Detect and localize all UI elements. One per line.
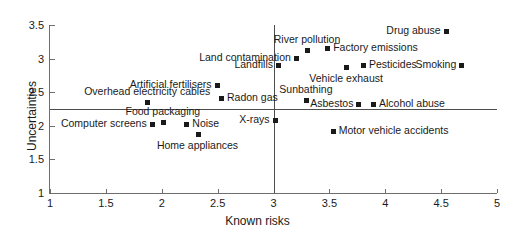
data-point-label: Overhead electricity cables xyxy=(84,86,210,97)
data-point-marker[interactable] xyxy=(145,100,150,105)
x-axis-line xyxy=(50,193,497,194)
data-point-label: Food packaging xyxy=(125,106,200,117)
x-tick-mark xyxy=(385,189,386,193)
data-point-label: River pollution xyxy=(274,34,341,45)
data-point-label: Asbestos xyxy=(310,98,353,109)
data-point-label: Alcohol abuse xyxy=(379,98,445,109)
x-tick-label: 4.5 xyxy=(433,197,448,209)
data-point-marker[interactable] xyxy=(305,48,310,53)
x-tick-label: 1 xyxy=(47,197,53,209)
x-axis-title: Known risks xyxy=(0,214,515,228)
data-point-marker[interactable] xyxy=(344,65,349,70)
x-tick-label: 5 xyxy=(494,197,500,209)
data-point-label: Landfills xyxy=(234,59,273,70)
y-tick-mark xyxy=(50,159,55,160)
data-point-marker[interactable] xyxy=(215,83,220,88)
x-tick-mark xyxy=(162,189,163,193)
y-tick-mark xyxy=(50,59,55,60)
data-point-marker[interactable] xyxy=(219,96,224,101)
data-point-marker[interactable] xyxy=(459,63,464,68)
data-point-marker[interactable] xyxy=(325,46,330,51)
data-point-marker[interactable] xyxy=(444,29,449,34)
data-point-marker[interactable] xyxy=(196,132,201,137)
y-tick-mark xyxy=(50,92,55,93)
data-point-label: Pesticides xyxy=(369,59,417,70)
y-tick-mark xyxy=(50,193,55,194)
x-tick-label: 4 xyxy=(382,197,388,209)
x-tick-label: 2 xyxy=(159,197,165,209)
x-tick-mark xyxy=(218,189,219,193)
x-tick-mark xyxy=(329,189,330,193)
data-point-marker[interactable] xyxy=(356,102,361,107)
x-tick-label: 3.5 xyxy=(322,197,337,209)
data-point-label: Computer screens xyxy=(61,118,147,129)
data-point-label: Noise xyxy=(192,118,219,129)
data-point-marker[interactable] xyxy=(184,122,189,127)
data-point-label: X-rays xyxy=(239,114,269,125)
data-point-label: Radon gas xyxy=(227,92,278,103)
data-point-marker[interactable] xyxy=(276,63,281,68)
data-point-label: Home appliances xyxy=(157,140,238,151)
data-point-marker[interactable] xyxy=(361,63,366,68)
data-point-marker[interactable] xyxy=(273,118,278,123)
x-tick-label: 2.5 xyxy=(210,197,225,209)
y-tick-mark xyxy=(50,25,55,26)
data-point-marker[interactable] xyxy=(304,98,309,103)
data-point-label: Factory emissions xyxy=(333,42,418,53)
x-tick-label: 3 xyxy=(270,197,276,209)
data-point-marker[interactable] xyxy=(331,129,336,134)
data-point-marker[interactable] xyxy=(161,120,166,125)
data-point-marker[interactable] xyxy=(150,122,155,127)
scatter-chart: 11.522.533.544.55 11.522.533.5 Drug abus… xyxy=(0,0,515,237)
x-tick-mark xyxy=(106,189,107,193)
data-point-label: Motor vehicle accidents xyxy=(339,125,449,136)
data-point-label: Smoking xyxy=(415,59,456,70)
data-point-label: Drug abuse xyxy=(386,25,440,36)
x-tick-mark xyxy=(497,189,498,193)
data-point-marker[interactable] xyxy=(294,56,299,61)
y-tick-label: 3.5 xyxy=(29,19,44,31)
data-point-marker[interactable] xyxy=(371,102,376,107)
y-axis-title: Uncertainties xyxy=(25,31,39,201)
x-tick-mark xyxy=(441,189,442,193)
data-point-label: Sunbathing xyxy=(279,84,332,95)
x-tick-label: 1.5 xyxy=(98,197,113,209)
y-tick-mark xyxy=(50,126,55,127)
